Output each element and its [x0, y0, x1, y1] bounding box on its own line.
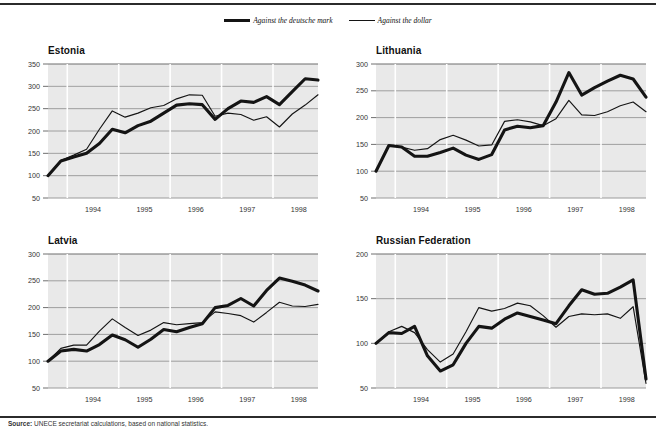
ytick-label-300: 300: [28, 82, 40, 91]
figure-container: Against the deutsche mark Against the do…: [0, 0, 656, 428]
ytick-label-250: 250: [28, 276, 40, 285]
xtick-label-1998: 1998: [619, 205, 635, 214]
source-label: Source:: [8, 420, 32, 427]
source-text: UNECE secretariat calculations, based on…: [34, 420, 208, 427]
plot-estonia: 5010015020025030035019941995199619971998: [0, 56, 328, 230]
xtick-label-1995: 1995: [136, 395, 152, 404]
ytick-label-250: 250: [356, 86, 368, 95]
source-note: Source: UNECE secretariat calculations, …: [8, 420, 208, 428]
legend-swatch-thick-icon: [224, 19, 250, 22]
xtick-label-1994: 1994: [85, 205, 101, 214]
xtick-label-1998: 1998: [619, 395, 635, 404]
plot-lithuania: 5010015020025030019941995199619971998: [328, 56, 656, 230]
ytick-label-150: 150: [28, 330, 40, 339]
xtick-label-1995: 1995: [464, 395, 480, 404]
legend-swatch-thin-icon: [349, 20, 375, 21]
plot-background: [48, 254, 318, 388]
ytick-label-200: 200: [28, 303, 40, 312]
xtick-label-1997: 1997: [567, 395, 583, 404]
plot-background: [376, 254, 646, 388]
legend-entry-deutsche-mark: Against the deutsche mark: [224, 16, 332, 25]
xtick-label-1998: 1998: [291, 395, 307, 404]
panel-russian-federation: Russian Federation 501001502001994199519…: [328, 232, 656, 420]
xtick-label-1996: 1996: [516, 395, 532, 404]
xtick-label-1996: 1996: [188, 395, 204, 404]
xtick-label-1995: 1995: [136, 205, 152, 214]
xtick-label-1998: 1998: [291, 205, 307, 214]
legend-entry-dollar: Against the dollar: [349, 16, 432, 25]
ytick-label-200: 200: [28, 127, 40, 136]
panel-title-latvia: Latvia: [48, 235, 78, 246]
ytick-label-300: 300: [28, 250, 40, 259]
ytick-label-100: 100: [28, 171, 40, 180]
ytick-label-100: 100: [28, 357, 40, 366]
ytick-label-50: 50: [32, 384, 40, 393]
legend-label-deutsche-mark: Against the deutsche mark: [253, 16, 332, 25]
xtick-label-1997: 1997: [567, 205, 583, 214]
xtick-label-1997: 1997: [239, 205, 255, 214]
panel-title-russian-federation: Russian Federation: [376, 235, 471, 246]
top-rule: [0, 3, 656, 5]
plot-background: [376, 64, 646, 198]
ytick-label-150: 150: [356, 140, 368, 149]
panel-estonia: Estonia 50100150200250300350199419951996…: [0, 42, 328, 230]
ytick-label-200: 200: [356, 113, 368, 122]
plot-russian-federation: 5010015020019941995199619971998: [328, 246, 656, 420]
ytick-label-100: 100: [356, 167, 368, 176]
xtick-label-1995: 1995: [464, 205, 480, 214]
xtick-label-1994: 1994: [85, 395, 101, 404]
xtick-label-1996: 1996: [516, 205, 532, 214]
xtick-label-1996: 1996: [188, 205, 204, 214]
ytick-label-300: 300: [356, 60, 368, 69]
ytick-label-250: 250: [28, 104, 40, 113]
ytick-label-150: 150: [28, 149, 40, 158]
ytick-label-200: 200: [356, 250, 368, 259]
panel-title-lithuania: Lithuania: [376, 45, 421, 56]
panel-lithuania: Lithuania 501001502002503001994199519961…: [328, 42, 656, 230]
xtick-label-1997: 1997: [239, 395, 255, 404]
panel-title-estonia: Estonia: [48, 45, 85, 56]
legend: Against the deutsche mark Against the do…: [0, 16, 656, 25]
panel-latvia: Latvia 501001502002503001994199519961997…: [0, 232, 328, 420]
bottom-rule: [0, 416, 656, 418]
ytick-label-50: 50: [32, 194, 40, 203]
ytick-label-350: 350: [28, 60, 40, 69]
legend-label-dollar: Against the dollar: [378, 16, 432, 25]
ytick-label-150: 150: [356, 294, 368, 303]
ytick-label-100: 100: [356, 339, 368, 348]
ytick-label-50: 50: [360, 384, 368, 393]
plot-latvia: 5010015020025030019941995199619971998: [0, 246, 328, 420]
xtick-label-1994: 1994: [413, 395, 429, 404]
xtick-label-1994: 1994: [413, 205, 429, 214]
ytick-label-50: 50: [360, 194, 368, 203]
